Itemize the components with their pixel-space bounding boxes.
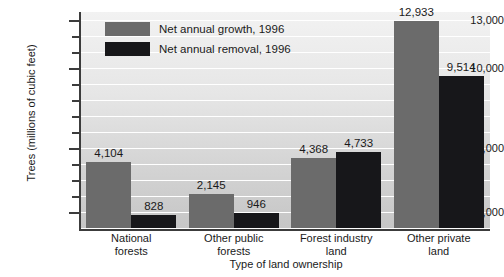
legend-label-growth: Net annual growth, 1996 bbox=[159, 23, 284, 35]
y-axis-title: Trees (millions of cubic feet) bbox=[25, 8, 37, 218]
bar-value-label: 12,933 bbox=[399, 6, 434, 18]
bar-value-label: 828 bbox=[144, 200, 163, 212]
y-tick-minor bbox=[72, 52, 80, 54]
legend-swatch-growth-icon bbox=[105, 22, 150, 36]
y-tick-major bbox=[69, 212, 80, 214]
legend-swatch-removal-icon bbox=[105, 42, 150, 56]
y-tick-minor bbox=[72, 84, 80, 86]
bar-growth bbox=[394, 21, 439, 228]
bar-value-label: 4,104 bbox=[94, 147, 123, 159]
legend: Net annual growth, 1996 Net annual remov… bbox=[105, 20, 291, 60]
bar-growth bbox=[291, 158, 336, 228]
bar-value-label: 4,733 bbox=[344, 137, 373, 149]
category-label: Nationalforests bbox=[111, 232, 151, 257]
legend-item-removal: Net annual removal, 1996 bbox=[105, 40, 291, 57]
y-tick-minor bbox=[72, 196, 80, 198]
bar-value-label: 9,514 bbox=[447, 61, 476, 73]
y-tick-minor bbox=[72, 164, 80, 166]
bar-removal bbox=[439, 76, 484, 228]
bar-removal bbox=[234, 213, 279, 228]
x-axis-title: Type of land ownership bbox=[80, 258, 492, 270]
y-tick-minor bbox=[72, 180, 80, 182]
bar-removal bbox=[336, 152, 381, 228]
category-label: Forest industryland bbox=[300, 232, 373, 257]
y-tick-minor bbox=[72, 116, 80, 118]
y-tick-major bbox=[69, 20, 80, 22]
bar-value-label: 2,145 bbox=[197, 179, 226, 191]
y-tick-major bbox=[69, 68, 80, 70]
y-tick-minor bbox=[72, 36, 80, 38]
y-tick-minor bbox=[72, 100, 80, 102]
bar-growth bbox=[189, 194, 234, 228]
y-tick-label: 13,000 bbox=[438, 14, 504, 26]
bar-value-label: 946 bbox=[247, 198, 266, 210]
category-label: Other privateland bbox=[407, 232, 471, 257]
bar-chart: Trees (millions of cubic feet) 13,00010,… bbox=[0, 0, 504, 277]
legend-label-removal: Net annual removal, 1996 bbox=[159, 43, 291, 55]
bar-value-label: 4,368 bbox=[299, 143, 328, 155]
x-axis-line bbox=[79, 229, 490, 231]
y-tick-minor bbox=[72, 132, 80, 134]
y-tick-major bbox=[69, 148, 80, 150]
bar-removal bbox=[131, 215, 176, 228]
legend-item-growth: Net annual growth, 1996 bbox=[105, 20, 291, 37]
category-label: Other publicforests bbox=[204, 232, 263, 257]
bar-growth bbox=[86, 162, 131, 228]
